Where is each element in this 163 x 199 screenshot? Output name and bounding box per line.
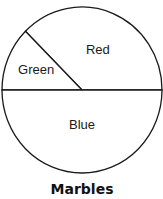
- pie-chart: RedGreenBlue Marbles: [0, 0, 163, 199]
- chart-title: Marbles: [51, 181, 114, 197]
- pie-slices: [2, 7, 162, 173]
- slice-label-green: Green: [18, 62, 54, 77]
- slice-label-blue: Blue: [69, 117, 95, 132]
- slice-label-red: Red: [86, 42, 110, 57]
